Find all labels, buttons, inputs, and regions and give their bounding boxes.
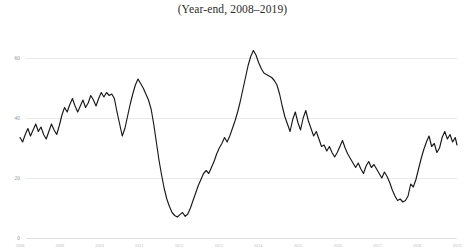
x-axis-tick-label: 2014 bbox=[254, 243, 263, 248]
y-axis-tick-label: 20 bbox=[0, 175, 20, 181]
x-axis-tick-label: 2019 bbox=[453, 243, 462, 248]
line-path bbox=[20, 51, 457, 218]
y-axis-tick-label: 0 bbox=[0, 235, 20, 241]
x-axis-tick-label: 2009 bbox=[55, 243, 64, 248]
x-axis-tick-label: 2008 bbox=[16, 243, 25, 248]
x-axis-tick-label: 2012 bbox=[175, 243, 184, 248]
x-axis-tick-label: 2017 bbox=[373, 243, 382, 248]
plot-area: 6040200200820092010201120122013201420152… bbox=[20, 28, 457, 238]
chart-title: (Year-end, 2008–2019) bbox=[0, 3, 465, 15]
x-axis-tick-label: 2015 bbox=[294, 243, 303, 248]
x-axis-tick-label: 2011 bbox=[135, 243, 143, 248]
x-axis-tick-label: 2013 bbox=[215, 243, 224, 248]
y-axis-tick-label: 40 bbox=[0, 115, 20, 121]
x-axis-tick-label: 2016 bbox=[333, 243, 342, 248]
line-series bbox=[20, 28, 457, 238]
y-axis-tick-label: 60 bbox=[0, 55, 20, 61]
chart-container: (Year-end, 2008–2019) 604020020082009201… bbox=[0, 0, 465, 248]
x-axis-tick-label: 2018 bbox=[413, 243, 422, 248]
gridline-0 bbox=[26, 238, 457, 239]
x-axis-tick-label: 2010 bbox=[95, 243, 104, 248]
